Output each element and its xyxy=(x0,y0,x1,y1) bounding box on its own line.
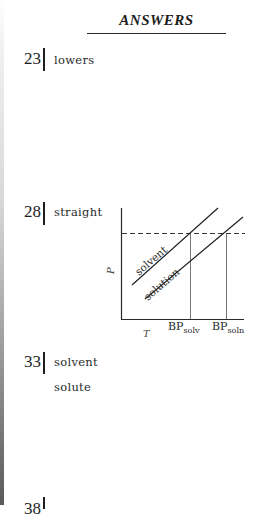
solvent-line-label: solvent xyxy=(132,243,169,278)
answer-text: solute xyxy=(54,380,91,394)
number-divider xyxy=(43,497,45,509)
bp-solution-label: BPsoln xyxy=(212,320,244,335)
bp-solvent-label: BPsolv xyxy=(168,320,200,335)
answer-text: solvent xyxy=(54,355,98,369)
number-divider xyxy=(43,352,45,374)
question-number: 33 xyxy=(21,352,41,372)
question-number: 38 xyxy=(21,499,41,518)
x-axis-label: T xyxy=(143,328,151,339)
y-axis-label: P xyxy=(105,267,116,275)
